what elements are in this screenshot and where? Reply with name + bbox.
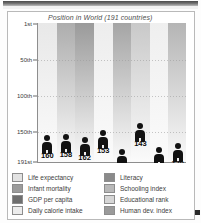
gridline	[38, 96, 186, 97]
legend-label: Schooling index	[120, 185, 166, 192]
legend-item[interactable]: Educational rank	[104, 194, 192, 205]
legend-swatch-icon	[104, 206, 115, 215]
legend-swatch-icon	[104, 173, 115, 182]
plot-area: 1st50th100th150th191st 16015816215317914…	[14, 23, 186, 163]
figure-head-icon	[119, 149, 125, 155]
value-label: 153	[97, 146, 110, 155]
legend-item[interactable]: Literacy	[104, 172, 192, 183]
figure-head-icon	[175, 143, 181, 149]
y-tick-label: 191st	[17, 159, 32, 165]
figure-head-icon	[100, 130, 106, 136]
legend-swatch-icon	[12, 195, 23, 204]
legend-item[interactable]: Infant mortality	[12, 183, 100, 194]
figure-head-icon	[44, 135, 50, 141]
legend-swatch-icon	[104, 195, 115, 204]
legend-column-left: Life expectancyInfant mortalityGDP per c…	[12, 172, 100, 216]
chart-screenshot: Position in World (191 countries) 1st50t…	[0, 0, 201, 223]
figure-body-icon	[154, 154, 164, 163]
figure-marker	[117, 149, 127, 163]
value-label: 160	[41, 151, 54, 160]
legend-column-right: LiteracySchooling indexEducational rankH…	[104, 172, 192, 216]
value-label: 170	[171, 159, 184, 163]
legend-label: Infant mortality	[28, 185, 71, 192]
y-axis: 1st50th100th150th191st	[14, 23, 37, 163]
legend-swatch-icon	[104, 184, 115, 193]
chart-title: Position in World (191 countries)	[48, 14, 152, 21]
legend-item[interactable]: Schooling index	[104, 183, 192, 194]
legend-item[interactable]: Human dev. index	[104, 205, 192, 216]
figure-head-icon	[63, 134, 69, 140]
legend-item[interactable]: Life expectancy	[12, 172, 100, 183]
legend-label: Life expectancy	[28, 174, 73, 181]
value-label: 158	[60, 150, 73, 159]
figure-head-icon	[82, 137, 88, 143]
y-tick-label: 1st	[24, 21, 32, 27]
legend-swatch-icon	[12, 206, 23, 215]
plot-canvas: 160158162153179143176170	[37, 23, 186, 163]
y-tick-label: 150th	[17, 129, 32, 135]
legend-item[interactable]: Daily calorie intake	[12, 205, 100, 216]
figure-marker	[154, 147, 164, 163]
y-tick-label: 50th	[20, 57, 32, 63]
legend-swatch-icon	[12, 184, 23, 193]
legend-label: GDP per capita	[28, 196, 72, 203]
legend-label: Literacy	[120, 174, 143, 181]
legend-item[interactable]: GDP per capita	[12, 194, 100, 205]
chart-band	[150, 23, 169, 163]
gridline	[38, 60, 186, 61]
figure-body-icon	[117, 156, 127, 163]
y-tick-label: 100th	[17, 93, 32, 99]
page-top-strip-light	[3, 6, 198, 9]
legend-label: Human dev. index	[120, 207, 172, 214]
value-label: 143	[134, 139, 147, 148]
legend-label: Educational rank	[120, 196, 168, 203]
figure-head-icon	[156, 147, 162, 153]
chart-band	[113, 23, 132, 163]
value-label: 162	[78, 153, 91, 162]
legend-swatch-icon	[12, 173, 23, 182]
figure-head-icon	[137, 123, 143, 129]
legend: Life expectancyInfant mortalityGDP per c…	[12, 172, 188, 216]
page-edge-marker	[195, 210, 200, 215]
legend-label: Daily calorie intake	[28, 207, 83, 214]
